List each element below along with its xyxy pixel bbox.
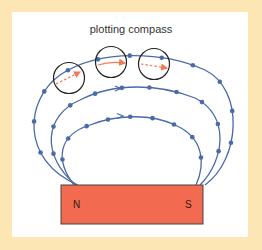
field-line-dot xyxy=(199,155,204,160)
field-line-dot xyxy=(84,124,89,129)
field-line-middle xyxy=(51,87,220,185)
field-line-inner xyxy=(62,117,201,185)
field-line-dot xyxy=(127,53,132,58)
field-line-dot xyxy=(216,122,221,127)
field-line-dot xyxy=(159,55,164,60)
field-line-dot xyxy=(68,103,73,108)
field-line-dot xyxy=(42,89,47,94)
field-line-dot xyxy=(93,91,98,96)
field-line-dot xyxy=(32,119,37,124)
field-line-dot xyxy=(150,116,155,121)
field-line-dot xyxy=(229,140,234,145)
field-line-dot xyxy=(120,86,125,91)
compass-right xyxy=(139,49,170,80)
compass-needle-icon xyxy=(56,72,80,84)
magnet-south-label: S xyxy=(185,199,192,210)
compass-left xyxy=(54,63,85,94)
bar-magnet: N S xyxy=(61,185,203,224)
field-line-dot xyxy=(190,135,195,140)
compass-center xyxy=(96,47,127,78)
field-line-dot xyxy=(230,109,235,114)
field-line-dot xyxy=(66,136,71,141)
field-line-dot xyxy=(172,122,177,127)
field-line-dot xyxy=(147,85,152,90)
field-line-dot xyxy=(216,149,221,154)
field-line-dot xyxy=(200,100,205,105)
field-line-dot xyxy=(217,79,222,84)
magnet-north-label: N xyxy=(73,199,80,210)
field-line-dot xyxy=(51,151,56,156)
magnet-body xyxy=(61,185,203,224)
field-line-dot xyxy=(128,115,133,120)
field-line-dot xyxy=(106,117,111,122)
compass-needle-icon xyxy=(141,64,167,68)
field-line-dot xyxy=(174,90,179,95)
field-line-dot xyxy=(51,124,56,129)
magnetic-field-diagram: N S xyxy=(0,0,262,250)
field-line-dot xyxy=(38,150,43,155)
field-line-dot xyxy=(66,68,71,73)
field-line-dot xyxy=(191,63,196,68)
field-line-dot xyxy=(60,157,65,162)
compass-needle-icon xyxy=(98,62,125,65)
